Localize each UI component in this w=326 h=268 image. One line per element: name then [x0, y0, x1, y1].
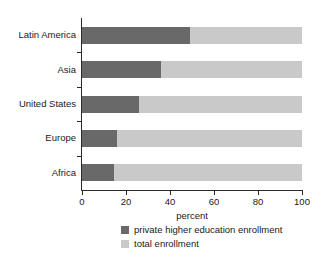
legend-label-private: private higher education enrollment	[134, 225, 282, 235]
category-label: Europe	[45, 134, 76, 144]
legend: private higher education enrollment tota…	[121, 224, 282, 252]
legend-item-private[interactable]: private higher education enrollment	[121, 224, 282, 235]
category-label: Africa	[52, 168, 76, 178]
bar-segment-private	[82, 96, 139, 113]
bar-row: Europe	[82, 130, 302, 147]
x-tick	[214, 190, 215, 195]
x-tick	[258, 190, 259, 195]
bar-segment-total	[82, 164, 302, 181]
bar-segment-private	[82, 27, 190, 44]
legend-label-total: total enrollment	[134, 239, 199, 249]
x-tick	[126, 190, 127, 195]
bar-row: Asia	[82, 61, 302, 78]
plot-area: Latin AmericaAsiaUnited StatesEuropeAfri…	[82, 18, 302, 190]
horizontal-stacked-bar-chart: Latin AmericaAsiaUnited StatesEuropeAfri…	[0, 0, 326, 268]
x-axis-title: percent	[82, 211, 302, 221]
legend-item-total[interactable]: total enrollment	[121, 238, 282, 249]
bar-segment-private	[82, 164, 114, 181]
x-tick	[170, 190, 171, 195]
x-tick	[302, 190, 303, 195]
x-tick-label: 80	[253, 197, 264, 207]
x-tick-label: 40	[165, 197, 176, 207]
bar-row: United States	[82, 96, 302, 113]
x-tick-label: 60	[209, 197, 220, 207]
bar-row: Africa	[82, 164, 302, 181]
legend-swatch-total-icon	[121, 240, 129, 248]
category-label: Latin America	[18, 30, 76, 40]
y-tick	[77, 156, 82, 157]
x-tick-label: 100	[294, 197, 310, 207]
legend-swatch-private-icon	[121, 226, 129, 234]
x-tick-label: 0	[79, 197, 84, 207]
bar-row: Latin America	[82, 27, 302, 44]
x-tick-label: 20	[121, 197, 132, 207]
category-label: Asia	[58, 65, 76, 75]
y-tick	[77, 87, 82, 88]
bar-segment-private	[82, 130, 117, 147]
x-axis-line	[81, 190, 303, 191]
category-label: United States	[19, 99, 76, 109]
x-tick	[82, 190, 83, 195]
bar-segment-private	[82, 61, 161, 78]
y-tick	[77, 121, 82, 122]
y-tick	[77, 52, 82, 53]
